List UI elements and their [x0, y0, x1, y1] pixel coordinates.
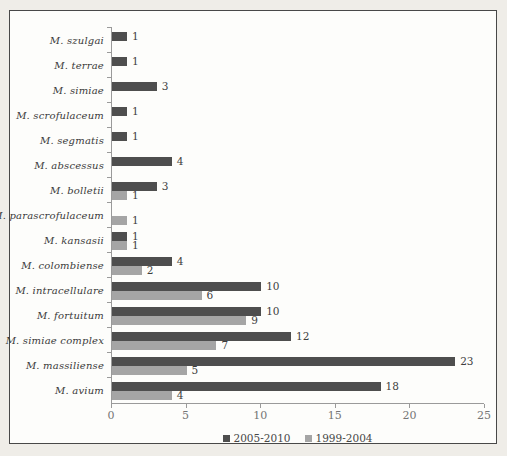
- figure-frame: M. szulgai1M. terrae1M. simiae3M. scrofu…: [9, 10, 497, 444]
- bar-1999-2004: [112, 216, 127, 225]
- category-label: M. scrofulaceum: [16, 103, 104, 128]
- bar-2005-2010: [112, 382, 381, 391]
- bar-2005-2010: [112, 57, 127, 66]
- bar-line: 4: [112, 257, 485, 266]
- bar-1999-2004: [112, 191, 127, 200]
- category-label: M. segmatis: [40, 128, 104, 153]
- x-axis-tick-label: 25: [477, 410, 491, 421]
- bar-line: 1: [112, 191, 485, 200]
- category-row: M. colombiense42: [112, 253, 485, 278]
- legend-swatch-icon: [223, 435, 230, 442]
- bar-line: [112, 41, 485, 50]
- category-row: M. szulgai1: [112, 28, 485, 53]
- category-label: M. kansasii: [44, 228, 104, 253]
- bar-1999-2004: [112, 341, 216, 350]
- x-axis-tick-label: 5: [182, 410, 189, 421]
- category-row: M. scrofulaceum1: [112, 103, 485, 128]
- legend: 2005-20101999-2004: [111, 433, 484, 444]
- category-bars: 4: [112, 153, 485, 178]
- category-row: M. avium184: [112, 378, 485, 403]
- category-bars: 1: [112, 28, 485, 53]
- category-bars: 42: [112, 253, 485, 278]
- category-label: M. simiae complex: [6, 328, 104, 353]
- bar-2005-2010: [112, 157, 172, 166]
- category-label: M. terrae: [54, 53, 104, 78]
- category-row: M. fortuitum109: [112, 303, 485, 328]
- category-label: M. szulgai: [50, 28, 104, 53]
- bar-line: 4: [112, 391, 485, 400]
- value-label: 5: [192, 365, 199, 376]
- bar-2005-2010: [112, 107, 127, 116]
- category-bars: 106: [112, 278, 485, 303]
- bar-2005-2010: [112, 282, 261, 291]
- bar-line: 6: [112, 291, 485, 300]
- bar-line: 18: [112, 382, 485, 391]
- category-bars: 11: [112, 228, 485, 253]
- bar-1999-2004: [112, 266, 142, 275]
- bar-line: 1: [112, 232, 485, 241]
- category-bars: 127: [112, 328, 485, 353]
- bar-line: 10: [112, 307, 485, 316]
- bar-line: 1: [112, 57, 485, 66]
- category-bars: 1: [112, 103, 485, 128]
- category-bars: 1: [112, 53, 485, 78]
- category-row: M. parascrofulaceum1: [112, 203, 485, 228]
- value-label: 9: [251, 315, 258, 326]
- bar-line: [112, 141, 485, 150]
- screenshot-background: M. szulgai1M. terrae1M. simiae3M. scrofu…: [0, 0, 507, 456]
- bar-line: 5: [112, 366, 485, 375]
- bar-chart: M. szulgai1M. terrae1M. simiae3M. scrofu…: [10, 28, 496, 444]
- bar-1999-2004: [112, 366, 187, 375]
- legend-item: 1999-2004: [305, 433, 373, 444]
- category-label: M. abscessus: [34, 153, 104, 178]
- category-row: M. kansasii11: [112, 228, 485, 253]
- legend-item: 2005-2010: [223, 433, 291, 444]
- bar-line: 1: [112, 241, 485, 250]
- x-axis-tick: [186, 404, 187, 408]
- value-label: 7: [221, 340, 228, 351]
- bar-1999-2004: [112, 241, 127, 250]
- bar-line: 23: [112, 357, 485, 366]
- category-row: M. terrae1: [112, 53, 485, 78]
- category-label: M. avium: [55, 378, 104, 403]
- category-label: M. parascrofulaceum: [0, 203, 104, 228]
- bar-line: 1: [112, 216, 485, 225]
- x-axis-tick: [409, 404, 410, 408]
- category-label: M. bolletii: [50, 178, 104, 203]
- value-label: 1: [132, 240, 139, 251]
- bar-2005-2010: [112, 132, 127, 141]
- bar-2005-2010: [112, 232, 127, 241]
- value-label: 1: [132, 215, 139, 226]
- bar-line: [112, 91, 485, 100]
- x-axis-tick-label: 10: [253, 410, 267, 421]
- value-label: 4: [177, 390, 184, 401]
- value-label: 6: [207, 290, 214, 301]
- bar-line: 1: [112, 132, 485, 141]
- bar-2005-2010: [112, 257, 172, 266]
- x-axis-tick: [111, 404, 112, 408]
- category-row: M. simiae3: [112, 78, 485, 103]
- category-label: M. intracellulare: [15, 278, 104, 303]
- bar-line: 9: [112, 316, 485, 325]
- bar-line: 3: [112, 82, 485, 91]
- legend-label: 1999-2004: [316, 433, 373, 444]
- value-label: 1: [132, 190, 139, 201]
- category-row: M. simiae complex127: [112, 328, 485, 353]
- x-axis-tick-label: 0: [108, 410, 115, 421]
- category-bars: 31: [112, 178, 485, 203]
- category-bars: 109: [112, 303, 485, 328]
- bar-line: 2: [112, 266, 485, 275]
- category-label: M. massiliense: [26, 353, 104, 378]
- category-label: M. simiae: [53, 78, 104, 103]
- bar-line: [112, 166, 485, 175]
- x-axis-tick: [484, 404, 485, 408]
- bar-line: 12: [112, 332, 485, 341]
- x-axis-tick-label: 15: [328, 410, 342, 421]
- category-row: M. bolletii31: [112, 178, 485, 203]
- bar-1999-2004: [112, 291, 202, 300]
- bar-2005-2010: [112, 357, 455, 366]
- bar-2005-2010: [112, 82, 157, 91]
- bar-line: 4: [112, 157, 485, 166]
- bar-line: 10: [112, 282, 485, 291]
- category-bars: 1: [112, 203, 485, 228]
